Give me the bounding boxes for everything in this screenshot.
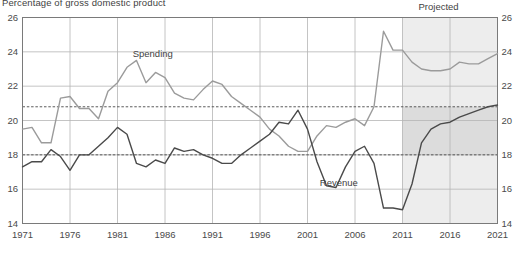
y-axis-tick-right-20: 20 bbox=[502, 115, 522, 126]
y-axis-tick-right-24: 24 bbox=[502, 46, 522, 57]
x-axis-tick-2011: 2011 bbox=[386, 229, 420, 240]
y-axis-tick-left-14: 14 bbox=[1, 218, 18, 229]
y-axis-tick-left-24: 24 bbox=[1, 46, 18, 57]
y-axis-tick-right-22: 22 bbox=[502, 80, 522, 91]
x-axis-tick-1991: 1991 bbox=[196, 229, 230, 240]
y-axis-tick-left-20: 20 bbox=[1, 115, 18, 126]
y-axis-tick-right-14: 14 bbox=[502, 218, 522, 229]
x-axis-tick-1996: 1996 bbox=[243, 229, 277, 240]
y-axis-tick-left-16: 16 bbox=[1, 183, 18, 194]
chart-plot-svg bbox=[0, 0, 531, 253]
x-axis-tick-2021: 2021 bbox=[481, 229, 515, 240]
y-axis-tick-left-22: 22 bbox=[1, 80, 18, 91]
chart-container: Percentage of gross domestic product 141… bbox=[0, 0, 531, 253]
projected-label: Projected bbox=[419, 1, 459, 12]
y-axis-tick-right-26: 26 bbox=[502, 12, 522, 23]
x-axis-tick-1971: 1971 bbox=[6, 229, 40, 240]
y-axis-tick-left-18: 18 bbox=[1, 149, 18, 160]
x-axis-tick-1976: 1976 bbox=[53, 229, 87, 240]
x-axis-tick-2001: 2001 bbox=[291, 229, 325, 240]
x-axis-tick-1986: 1986 bbox=[148, 229, 182, 240]
y-axis-tick-right-16: 16 bbox=[502, 183, 522, 194]
spending-label: Spending bbox=[133, 48, 173, 59]
x-axis-tick-1981: 1981 bbox=[101, 229, 135, 240]
revenue-label: Revenue bbox=[320, 177, 358, 188]
y-axis-tick-left-26: 26 bbox=[1, 12, 18, 23]
y-axis-tick-right-18: 18 bbox=[502, 149, 522, 160]
x-axis-tick-2016: 2016 bbox=[433, 229, 467, 240]
x-axis-tick-2006: 2006 bbox=[338, 229, 372, 240]
